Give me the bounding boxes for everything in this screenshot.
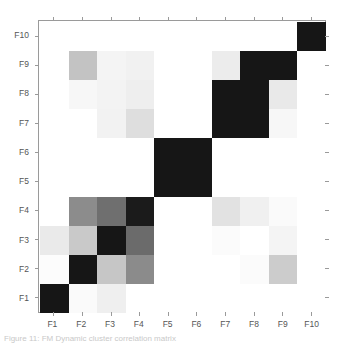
heatmap-cell bbox=[240, 226, 269, 255]
heatmap-cell bbox=[212, 197, 241, 226]
y-axis-tick-mark-right bbox=[325, 123, 329, 124]
heatmap-cell bbox=[126, 22, 155, 51]
y-axis-tick-mark bbox=[35, 239, 39, 240]
heatmap-cell bbox=[297, 51, 326, 80]
heatmap-cell bbox=[126, 255, 155, 284]
heatmap-cell bbox=[240, 80, 269, 109]
heatmap-cell bbox=[212, 226, 241, 255]
heatmap-cell bbox=[69, 80, 98, 109]
y-axis-tick-label: F3 bbox=[19, 235, 29, 245]
heatmap-cell bbox=[183, 226, 212, 255]
heatmap-cell bbox=[154, 255, 183, 284]
heatmap-cell bbox=[154, 168, 183, 197]
y-axis-tick-mark-right bbox=[325, 268, 329, 269]
y-axis-tick-mark bbox=[35, 210, 39, 211]
heatmap-cell bbox=[240, 255, 269, 284]
heatmap-cell bbox=[126, 51, 155, 80]
heatmap-cell bbox=[269, 255, 298, 284]
y-axis-tick-mark-right bbox=[325, 36, 329, 37]
heatmap-cell bbox=[97, 51, 126, 80]
heatmap-cell bbox=[269, 197, 298, 226]
heatmap-cell bbox=[297, 168, 326, 197]
heatmap-cell bbox=[154, 80, 183, 109]
heatmap-cell bbox=[297, 22, 326, 51]
heatmap-cell bbox=[212, 284, 241, 313]
heatmap-cell bbox=[97, 109, 126, 138]
heatmap-cell bbox=[212, 255, 241, 284]
plot-frame bbox=[38, 20, 326, 313]
y-axis-tick-mark bbox=[35, 123, 39, 124]
heatmap-cell bbox=[40, 226, 69, 255]
heatmap-cell bbox=[40, 284, 69, 313]
heatmap-cell bbox=[126, 284, 155, 313]
heatmap-cell bbox=[297, 109, 326, 138]
heatmap-cell bbox=[69, 284, 98, 313]
heatmap-cell bbox=[297, 138, 326, 167]
heatmap-cell bbox=[154, 226, 183, 255]
heatmap-cell bbox=[40, 138, 69, 167]
x-axis-tick-mark-top bbox=[254, 17, 255, 21]
heatmap-cell bbox=[269, 284, 298, 313]
heatmap-cell bbox=[126, 226, 155, 255]
y-axis-tick-mark bbox=[35, 268, 39, 269]
heatmap-cell bbox=[97, 80, 126, 109]
heatmap-cell bbox=[126, 138, 155, 167]
heatmap-cell bbox=[126, 197, 155, 226]
x-axis-tick-mark-top bbox=[111, 17, 112, 21]
heatmap-cell bbox=[126, 168, 155, 197]
heatmap-cell bbox=[297, 197, 326, 226]
heatmap-cell bbox=[126, 109, 155, 138]
heatmap-cell bbox=[97, 284, 126, 313]
y-axis-tick-label: F7 bbox=[19, 118, 29, 128]
heatmap-cell bbox=[183, 168, 212, 197]
heatmap-cell bbox=[40, 80, 69, 109]
heatmap-cell bbox=[240, 168, 269, 197]
heatmap-cell bbox=[269, 22, 298, 51]
x-axis-tick-mark-top bbox=[139, 17, 140, 21]
heatmap-cell bbox=[269, 138, 298, 167]
y-axis-tick-mark-right bbox=[325, 239, 329, 240]
x-axis-tick-mark-top bbox=[282, 17, 283, 21]
heatmap-cell bbox=[40, 51, 69, 80]
heatmap-cell bbox=[183, 109, 212, 138]
heatmap-cell bbox=[212, 109, 241, 138]
heatmap-cell bbox=[240, 197, 269, 226]
y-axis-tick-label: F4 bbox=[19, 205, 29, 215]
heatmap-cell bbox=[97, 226, 126, 255]
y-axis-tick-mark bbox=[35, 36, 39, 37]
y-axis-tick-mark-right bbox=[325, 65, 329, 66]
heatmap-cell bbox=[269, 226, 298, 255]
x-axis-tick-mark-top bbox=[82, 17, 83, 21]
heatmap-cell bbox=[183, 197, 212, 226]
y-axis-tick-mark bbox=[35, 65, 39, 66]
y-axis-tick-label: F9 bbox=[19, 59, 29, 69]
heatmap-cell bbox=[40, 22, 69, 51]
heatmap-cell bbox=[69, 255, 98, 284]
y-axis-labels: F10F9F8F7F6F5F4F3F2F1 bbox=[0, 20, 33, 313]
heatmap-cell bbox=[240, 138, 269, 167]
x-axis-tick-mark-top bbox=[311, 17, 312, 21]
heatmap-cell bbox=[240, 284, 269, 313]
heatmap-cell bbox=[240, 109, 269, 138]
x-axis-tick-label: F8 bbox=[249, 319, 259, 329]
x-axis-tick-mark-top bbox=[196, 17, 197, 21]
y-axis-tick-mark bbox=[35, 181, 39, 182]
x-axis-tick-label: F5 bbox=[163, 319, 173, 329]
heatmap-cell bbox=[154, 138, 183, 167]
y-axis-tick-mark bbox=[35, 152, 39, 153]
x-axis-tick-mark-top bbox=[53, 17, 54, 21]
y-axis-tick-label: F2 bbox=[19, 264, 29, 274]
x-axis-tick-mark-top bbox=[168, 17, 169, 21]
heatmap-cell bbox=[69, 168, 98, 197]
heatmap-cell bbox=[40, 109, 69, 138]
heatmap-cell bbox=[97, 255, 126, 284]
heatmap-cell bbox=[126, 80, 155, 109]
heatmap-cell bbox=[297, 284, 326, 313]
heatmap-cell bbox=[69, 226, 98, 255]
heatmap-cell bbox=[212, 22, 241, 51]
y-axis-tick-label: F10 bbox=[14, 30, 29, 40]
heatmap-grid bbox=[40, 22, 326, 313]
y-axis-tick-label: F1 bbox=[19, 293, 29, 303]
x-axis-tick-label: F3 bbox=[105, 319, 115, 329]
heatmap-cell bbox=[269, 168, 298, 197]
